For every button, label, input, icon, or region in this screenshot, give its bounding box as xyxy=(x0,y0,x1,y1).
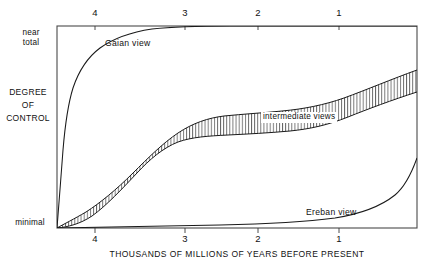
bottom-tick-label-3: 3 xyxy=(175,234,195,244)
chart-figure xyxy=(0,0,430,268)
top-tick-label-3: 3 xyxy=(175,8,195,18)
gaian-view-label: Gaian view xyxy=(105,39,151,48)
bottom-tick-label-2: 2 xyxy=(248,234,268,244)
top-tick-label-1: 1 xyxy=(329,8,349,18)
y-axis-top-label-line1: near xyxy=(8,29,54,38)
y-axis-title-line2: OF xyxy=(0,101,56,110)
top-tick-label-2: 2 xyxy=(248,8,268,18)
x-axis-title: THOUSANDS OF MILLIONS OF YEARS BEFORE PR… xyxy=(57,250,417,259)
y-axis-title-line3: CONTROL xyxy=(0,114,56,123)
y-axis-title-line1: DEGREE xyxy=(0,88,56,97)
bottom-tick-label-4: 4 xyxy=(85,234,105,244)
y-axis-top-label-line2: total xyxy=(8,39,54,48)
bottom-axis-ticks xyxy=(95,228,339,233)
ereban-view-label: Ereban view xyxy=(306,208,357,217)
chart-canvas: 4 3 2 1 4 3 2 1 near total minimal DEGRE… xyxy=(0,0,430,268)
bottom-tick-label-1: 1 xyxy=(329,234,349,244)
y-axis-bottom-label: minimal xyxy=(4,219,56,228)
top-tick-label-4: 4 xyxy=(85,8,105,18)
intermediate-views-label: intermediate views xyxy=(261,112,337,123)
